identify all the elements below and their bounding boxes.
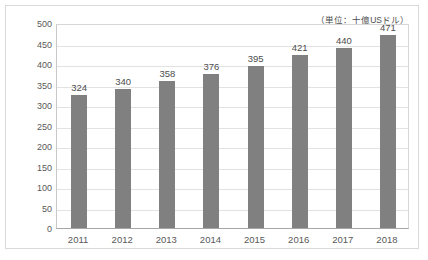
x-axis-tick-label: 2018 <box>376 234 397 245</box>
y-axis-tick-label: 350 <box>8 81 52 91</box>
bar-value-label: 440 <box>336 35 352 46</box>
y-axis-tick-label: 300 <box>8 101 52 111</box>
bar-slot: 440 <box>322 25 366 228</box>
y-axis-tick-label: 100 <box>8 183 52 193</box>
y-axis-tick-label: 450 <box>8 40 52 50</box>
x-axis-tick-label: 2017 <box>332 234 353 245</box>
x-axis-tick-label: 2012 <box>112 234 133 245</box>
y-axis-tick-label: 200 <box>8 142 52 152</box>
y-axis-tick-label: 50 <box>8 204 52 214</box>
bar-slot: 421 <box>278 25 322 228</box>
bar-slot: 395 <box>234 25 278 228</box>
bar[interactable] <box>336 48 352 228</box>
x-axis-tick-label: 2014 <box>200 234 221 245</box>
x-axis-tick-label: 2011 <box>68 234 88 245</box>
bar-slot: 324 <box>57 25 101 228</box>
y-axis-tick-label: 500 <box>8 19 52 29</box>
bar-slot: 358 <box>145 25 189 228</box>
bar[interactable] <box>203 74 219 228</box>
chart-frame: （単位：十億USドル） 5004504003503002502001501005… <box>5 5 419 249</box>
y-axis-tick-labels: 500450400350300250200150100500 <box>6 24 52 229</box>
bar-slot: 471 <box>366 25 410 228</box>
x-axis-tick-labels: 20112012201320142015201620172018 <box>56 234 409 250</box>
bar[interactable] <box>380 35 396 228</box>
y-axis-tick-label: 250 <box>8 122 52 132</box>
x-axis-tick-label: 2015 <box>244 234 265 245</box>
y-axis-tick-label: 150 <box>8 163 52 173</box>
bar-series: 324340358376395421440471 <box>57 25 408 228</box>
bar[interactable] <box>292 55 308 228</box>
bar[interactable] <box>71 95 87 228</box>
x-axis-tick-label: 2016 <box>288 234 309 245</box>
bar-value-label: 358 <box>159 68 175 79</box>
y-axis-tick-label: 400 <box>8 60 52 70</box>
bar-slot: 376 <box>189 25 233 228</box>
y-axis-tick-label: 0 <box>8 224 52 234</box>
bar-value-label: 340 <box>115 76 131 87</box>
bar-value-label: 471 <box>380 22 396 33</box>
bar[interactable] <box>248 66 264 228</box>
bar-value-label: 376 <box>204 61 220 72</box>
bar-slot: 340 <box>101 25 145 228</box>
bar-value-label: 421 <box>292 42 308 53</box>
x-axis-tick-label: 2013 <box>156 234 177 245</box>
bar-value-label: 395 <box>248 53 264 64</box>
bar-value-label: 324 <box>71 82 87 93</box>
plot-area: 324340358376395421440471 <box>56 24 409 229</box>
bar[interactable] <box>159 81 175 228</box>
bar[interactable] <box>115 89 131 228</box>
